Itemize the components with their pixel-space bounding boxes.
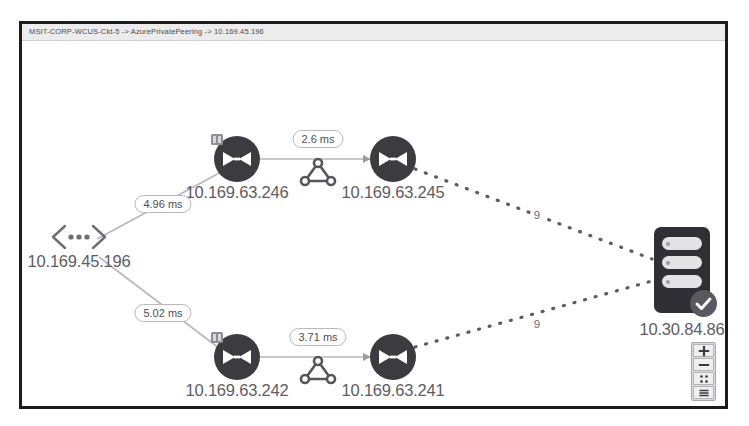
server-icon <box>654 227 710 313</box>
router-badge-icon <box>211 332 223 343</box>
node-router-label: 10.169.63.246 <box>186 183 289 202</box>
zoom-control[interactable] <box>691 342 716 401</box>
node-router-10-169-63-245[interactable]: 10.169.63.245 <box>370 136 416 182</box>
hop-count-241-to-server: 9 <box>531 319 543 331</box>
router-icon <box>214 136 260 182</box>
router-bowtie-glyph <box>378 348 408 366</box>
server-slot <box>662 256 702 269</box>
hop-count-245-to-server: 9 <box>531 210 543 222</box>
mesh-triangle-icon <box>298 355 338 385</box>
router-icon <box>214 334 260 380</box>
router-icon <box>370 136 416 182</box>
server-slot <box>662 275 702 288</box>
node-router-label: 10.169.63.241 <box>342 381 445 400</box>
window-title-bar: MSIT-CORP-WCUS-Ckt-5 -> AzurePrivatePeer… <box>22 24 725 41</box>
router-bowtie-glyph <box>378 150 408 168</box>
node-server-label: 10.30.84.86 <box>640 320 725 339</box>
router-bowtie-glyph <box>222 150 252 168</box>
topology-window: MSIT-CORP-WCUS-Ckt-5 -> AzurePrivatePeer… <box>19 21 728 409</box>
check-badge-icon <box>690 290 717 317</box>
zoom-out-button[interactable] <box>693 358 714 371</box>
router-icon <box>370 334 416 380</box>
node-router-label: 10.169.63.245 <box>342 183 445 202</box>
breadcrumb-title: MSIT-CORP-WCUS-Ckt-5 -> AzurePrivatePeer… <box>29 27 264 36</box>
server-slot <box>662 237 702 250</box>
latency-badge-242-to-241[interactable]: 3.71 ms <box>289 328 346 346</box>
node-router-label: 10.169.63.242 <box>186 381 289 400</box>
node-router-10-169-63-242[interactable]: 10.169.63.242 <box>214 334 260 380</box>
chevron-dots-icon <box>48 222 110 252</box>
legend-button[interactable] <box>693 386 714 399</box>
fit-to-screen-button[interactable] <box>693 372 714 385</box>
node-source[interactable]: 10.169.45.196 <box>48 222 110 252</box>
mesh-triangle-icon <box>298 157 338 187</box>
router-badge-icon <box>211 134 223 145</box>
router-bowtie-glyph <box>222 348 252 366</box>
topology-canvas[interactable]: 10.169.45.196 10.169.63.246 <box>22 41 725 406</box>
latency-badge-source-to-242[interactable]: 5.02 ms <box>134 304 191 322</box>
node-router-10-169-63-246[interactable]: 10.169.63.246 <box>214 136 260 182</box>
zoom-in-button[interactable] <box>693 344 714 357</box>
latency-badge-source-to-246[interactable]: 4.96 ms <box>134 195 191 213</box>
node-server-10-30-84-86[interactable]: 10.30.84.86 <box>654 227 710 313</box>
node-router-10-169-63-241[interactable]: 10.169.63.241 <box>370 334 416 380</box>
node-source-label: 10.169.45.196 <box>28 252 131 271</box>
latency-badge-246-to-245[interactable]: 2.6 ms <box>292 130 343 148</box>
